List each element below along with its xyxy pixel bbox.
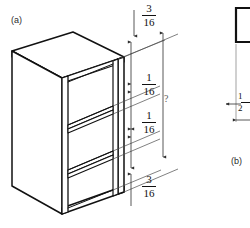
cabinet-right-stile-inner — [113, 59, 118, 196]
extension-line-top-inner — [118, 40, 165, 59]
engineering-drawing-figure: (a) (b) 3 16 1 16 1 16 3 16 ? 1 2 — [0, 0, 250, 228]
dimension-value-overall-height: ? — [164, 93, 168, 104]
cabinet-shelf-upper-front — [68, 110, 113, 133]
cabinet-shelf-upper-top — [68, 106, 113, 129]
panel-label-a: (a) — [11, 15, 22, 25]
dimension-denominator: 16 — [136, 85, 162, 97]
dimension-value-bottom-gap: 3 16 — [136, 174, 162, 199]
dimension-denominator: 16 — [136, 16, 162, 28]
cabinet-shelf-lower-top — [68, 151, 113, 174]
dimension-denominator: 2 — [238, 103, 250, 113]
dimension-numerator: 1 — [136, 72, 162, 84]
dimension-denominator: 16 — [136, 123, 162, 135]
dimension-value-top-gap: 3 16 — [136, 3, 162, 28]
dimension-denominator: 16 — [136, 187, 162, 199]
detail-rectangle — [236, 8, 250, 42]
dimension-value-wall-thickness: 1 2 — [238, 92, 250, 113]
dimension-numerator: 3 — [136, 174, 162, 186]
drawing-canvas — [0, 0, 250, 228]
dimension-value-shelf-1: 1 16 — [136, 72, 162, 97]
panel-label-b: (b) — [231, 156, 242, 166]
dimension-numerator: 3 — [136, 3, 162, 15]
cabinet-front-left-stile — [62, 76, 68, 214]
cabinet-shelf-lower-front — [68, 155, 113, 178]
cabinet-isometric — [12, 32, 124, 214]
dimension-value-shelf-2: 1 16 — [136, 110, 162, 135]
dimension-numerator: 1 — [238, 92, 250, 102]
dimension-numerator: 1 — [136, 110, 162, 122]
cabinet-left-side-panel — [12, 51, 62, 214]
cabinet-right-stile-outer — [118, 57, 124, 194]
